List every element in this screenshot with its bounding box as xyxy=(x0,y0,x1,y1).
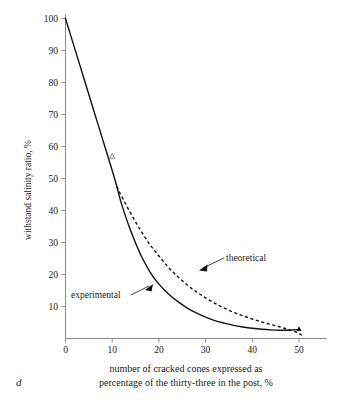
caption-line-1: number of cracked cones expressed as xyxy=(110,363,263,374)
figure-label: d xyxy=(16,376,22,388)
y-tick-label-60: 60 xyxy=(49,142,59,152)
figure-panel: 100 90 80 70 60 50 40 30 20 10 0 10 20 3… xyxy=(0,0,337,407)
x-tick-label-10: 10 xyxy=(107,345,117,355)
y-tick-labels-group: 100 90 80 70 60 50 40 30 20 10 xyxy=(44,14,59,312)
y-tick-label-30: 30 xyxy=(49,238,59,248)
annotation-experimental: experimental xyxy=(71,284,153,300)
theoretical-arrow-head xyxy=(199,265,208,272)
x-tick-labels-group: 0 10 20 30 40 50 xyxy=(63,345,304,355)
x-tick-label-50: 50 xyxy=(294,345,304,355)
series-group xyxy=(66,19,304,337)
x-ticks-group xyxy=(66,339,300,343)
experimental-label: experimental xyxy=(71,290,121,300)
chart-canvas: 100 90 80 70 60 50 40 30 20 10 0 10 20 3… xyxy=(0,0,337,407)
y-tick-label-100: 100 xyxy=(44,14,59,24)
y-tick-label-20: 20 xyxy=(49,270,59,280)
data-markers-group xyxy=(110,154,302,332)
y-tick-label-90: 90 xyxy=(49,46,59,56)
x-axis-caption: number of cracked cones expressed as per… xyxy=(99,363,273,388)
y-tick-label-10: 10 xyxy=(49,302,59,312)
data-marker-open-triangle xyxy=(110,154,115,159)
theoretical-label: theoretical xyxy=(226,253,266,263)
y-tick-label-70: 70 xyxy=(49,110,59,120)
y-tick-label-50: 50 xyxy=(49,174,59,184)
x-tick-label-30: 30 xyxy=(201,345,211,355)
series-theoretical-curve xyxy=(117,187,304,337)
series-experimental-curve xyxy=(66,19,300,331)
y-axis-title: withstand salinity ratio, % xyxy=(23,140,33,240)
caption-line-2: percentage of the thirty-three in the po… xyxy=(99,377,273,388)
y-tick-label-40: 40 xyxy=(49,206,59,216)
x-tick-label-40: 40 xyxy=(248,345,258,355)
x-tick-label-0: 0 xyxy=(63,345,68,355)
y-ticks-group xyxy=(62,19,66,307)
data-marker-solid-triangle xyxy=(296,326,301,331)
x-tick-label-20: 20 xyxy=(154,345,164,355)
experimental-leader-line xyxy=(131,286,149,295)
y-tick-label-80: 80 xyxy=(49,78,59,88)
annotation-theoretical: theoretical xyxy=(199,253,266,272)
